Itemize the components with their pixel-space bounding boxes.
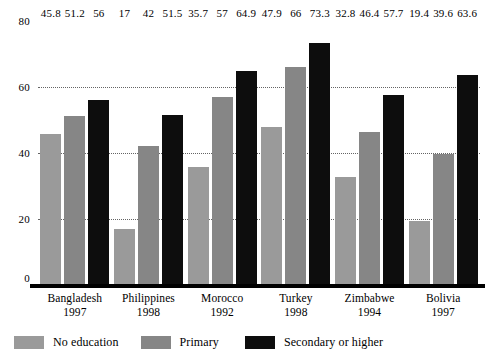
x-axis-label-year: 1992 (185, 305, 259, 319)
bar: 57.7 (383, 95, 404, 285)
bar-value-label: 73.3 (310, 8, 330, 19)
legend-label: No education (53, 336, 119, 349)
y-tick-label-60: 60 (19, 82, 30, 93)
bar-group: 45.851.256 (38, 21, 112, 285)
bar: 64.9 (236, 71, 257, 285)
bar: 42 (138, 146, 159, 285)
x-axis-label-country: Zimbabwe (333, 291, 407, 305)
bar-slot: 56 (88, 21, 109, 285)
x-axis-label-country: Philippines (112, 291, 186, 305)
x-axis-label: Zimbabwe1994 (333, 291, 407, 325)
bar-slot: 39.6 (433, 21, 454, 285)
bar-value-label: 19.4 (409, 8, 429, 19)
bar: 39.6 (433, 154, 454, 285)
legend-label: Secondary or higher (284, 336, 383, 349)
bar-group: 174251.5 (112, 21, 186, 285)
legend-swatch-icon (245, 336, 275, 349)
bar-group: 32.846.457.7 (333, 21, 407, 285)
bar: 46.4 (359, 132, 380, 285)
legend-item[interactable]: Primary (141, 336, 219, 349)
bar-value-label: 35.7 (188, 8, 208, 19)
x-axis-label-country: Bangladesh (38, 291, 112, 305)
bar-group: 19.439.663.6 (406, 21, 480, 285)
x-axis-labels: Bangladesh1997Philippines1998Morocco1992… (38, 291, 480, 325)
x-axis-label-year: 1994 (333, 305, 407, 319)
x-axis-label-country: Morocco (185, 291, 259, 305)
y-tick-label-40: 40 (19, 148, 30, 159)
bar: 51.5 (162, 115, 183, 285)
bar-value-label: 47.9 (262, 8, 282, 19)
x-axis-label: Philippines1998 (112, 291, 186, 325)
y-axis: 80 60 40 20 0 (0, 0, 38, 300)
bar: 56 (88, 100, 109, 285)
bar: 45.8 (40, 134, 61, 285)
y-tick-label-20: 20 (19, 214, 30, 225)
x-axis-label-year: 1998 (112, 305, 186, 319)
bar-slot: 35.7 (188, 21, 209, 285)
bar-value-label: 51.2 (65, 8, 85, 19)
legend-swatch-icon (141, 336, 171, 349)
bar: 51.2 (64, 116, 85, 285)
bar-slot: 51.2 (64, 21, 85, 285)
bar-slot: 42 (138, 21, 159, 285)
bar: 66 (285, 67, 306, 285)
bar: 63.6 (457, 75, 478, 285)
bar-slot: 51.5 (162, 21, 183, 285)
chart-legend: No educationPrimarySecondary or higher (14, 330, 484, 354)
bar-slot: 57.7 (383, 21, 404, 285)
x-axis-label: Morocco1992 (185, 291, 259, 325)
bar-chart: 80 60 40 20 0 45.851.256174251.535.75764… (0, 0, 494, 360)
bar: 17 (114, 229, 135, 285)
x-axis-label-year: 1997 (38, 305, 112, 319)
bar: 19.4 (409, 221, 430, 285)
bar-slot: 32.8 (335, 21, 356, 285)
x-axis-label: Bolivia1997 (406, 291, 480, 325)
x-axis-label: Turkey1998 (259, 291, 333, 325)
bar-value-label: 46.4 (359, 8, 379, 19)
bar: 73.3 (309, 43, 330, 285)
bar-slot: 64.9 (236, 21, 257, 285)
legend-swatch-icon (14, 336, 44, 349)
bar-slot: 73.3 (309, 21, 330, 285)
bar-slot: 46.4 (359, 21, 380, 285)
bar-slot: 66 (285, 21, 306, 285)
bar-slot: 47.9 (261, 21, 282, 285)
y-tick-label-0: 0 (24, 273, 30, 284)
bar: 35.7 (188, 167, 209, 285)
x-axis-label-year: 1997 (406, 305, 480, 319)
bar: 32.8 (335, 177, 356, 285)
bar-value-label: 17 (119, 8, 130, 19)
x-axis-label-country: Turkey (259, 291, 333, 305)
bar-group: 47.96673.3 (259, 21, 333, 285)
bar-value-label: 45.8 (41, 8, 61, 19)
bar-value-label: 66 (290, 8, 301, 19)
x-axis-label-year: 1998 (259, 305, 333, 319)
bar-group: 35.75764.9 (185, 21, 259, 285)
bar-value-label: 56 (93, 8, 104, 19)
bar-value-label: 63.6 (457, 8, 477, 19)
bar-value-label: 57.7 (383, 8, 403, 19)
bar-groups: 45.851.256174251.535.75764.947.96673.332… (38, 21, 480, 285)
bar-slot: 17 (114, 21, 135, 285)
legend-label: Primary (180, 336, 219, 349)
x-axis-label-country: Bolivia (406, 291, 480, 305)
x-axis-label: Bangladesh1997 (38, 291, 112, 325)
y-tick-label-80: 80 (19, 16, 30, 27)
legend-item[interactable]: Secondary or higher (245, 336, 383, 349)
bar-slot: 45.8 (40, 21, 61, 285)
plot-area: 45.851.256174251.535.75764.947.96673.332… (38, 21, 480, 285)
bar-slot: 19.4 (409, 21, 430, 285)
legend-item[interactable]: No education (14, 336, 119, 349)
bar-value-label: 39.6 (433, 8, 453, 19)
bar-slot: 57 (212, 21, 233, 285)
bar: 47.9 (261, 127, 282, 285)
x-axis-baseline (30, 284, 485, 288)
bar-value-label: 32.8 (335, 8, 355, 19)
bar: 57 (212, 97, 233, 285)
bar-slot: 63.6 (457, 21, 478, 285)
bar-value-label: 57 (216, 8, 227, 19)
bar-value-label: 42 (143, 8, 154, 19)
bar-value-label: 51.5 (162, 8, 182, 19)
bar-value-label: 64.9 (236, 8, 256, 19)
